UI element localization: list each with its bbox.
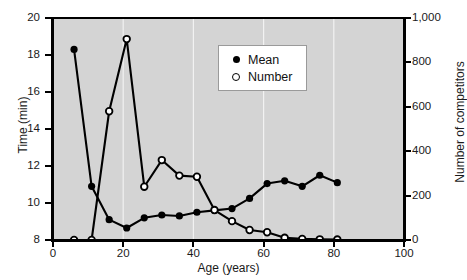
- data-point: [229, 218, 236, 225]
- chart-legend: Mean Number: [218, 45, 307, 91]
- y-axis-right-tick-label: 0: [412, 234, 462, 246]
- data-point: [159, 157, 166, 164]
- tick-mark: [45, 165, 51, 167]
- data-point: [299, 183, 306, 190]
- x-axis-tick-label: 0: [33, 248, 73, 260]
- data-point: [88, 183, 95, 190]
- legend-label-mean: Mean: [248, 53, 279, 67]
- data-point: [70, 46, 77, 53]
- data-point: [158, 211, 165, 218]
- tick-mark: [405, 150, 411, 152]
- axis-right-spine: [403, 17, 406, 241]
- y-axis-left-title: Time (min): [16, 55, 30, 195]
- data-point: [194, 173, 201, 180]
- data-point: [106, 216, 113, 223]
- legend-label-number: Number: [248, 70, 292, 84]
- tick-mark: [405, 17, 411, 19]
- x-axis-tick-label: 40: [173, 248, 213, 260]
- tick-mark: [45, 17, 51, 19]
- tick-mark: [405, 195, 411, 197]
- data-point: [123, 224, 130, 231]
- x-axis-tick-label: 20: [103, 248, 143, 260]
- data-point: [334, 179, 341, 186]
- axis-bottom-spine: [51, 239, 406, 242]
- x-axis-tick-label: 80: [314, 248, 354, 260]
- data-point: [281, 177, 288, 184]
- data-point: [123, 36, 130, 43]
- tick-mark: [45, 54, 51, 56]
- data-point: [211, 207, 218, 214]
- data-point: [228, 205, 235, 212]
- tick-mark: [405, 239, 411, 241]
- data-point: [264, 180, 271, 187]
- tick-mark: [405, 106, 411, 108]
- legend-item-mean: Mean: [229, 51, 292, 68]
- legend-item-number: Number: [229, 68, 292, 85]
- tick-mark: [45, 202, 51, 204]
- axis-left-spine: [51, 17, 54, 241]
- data-point: [106, 108, 113, 115]
- data-point: [316, 172, 323, 179]
- y-axis-left-tick-label: 10: [0, 197, 40, 209]
- tick-mark: [45, 91, 51, 93]
- x-axis-tick-label: 60: [244, 248, 284, 260]
- data-point: [141, 183, 148, 190]
- y-axis-right-title: Number of competitors: [453, 32, 467, 212]
- tick-mark: [45, 128, 51, 130]
- tick-mark: [405, 61, 411, 63]
- data-point: [176, 212, 183, 219]
- x-axis-tick-label: 100: [384, 248, 424, 260]
- axis-top-spine: [51, 17, 406, 19]
- x-axis-title: Age (years): [53, 261, 404, 275]
- y-axis-left-tick-label: 20: [0, 12, 40, 24]
- tick-mark: [45, 239, 51, 241]
- filled-circle-icon: [229, 56, 243, 63]
- data-point: [264, 229, 271, 236]
- y-axis-left-tick-label: 8: [0, 234, 40, 246]
- data-point: [193, 209, 200, 216]
- y-axis-right-tick-label: 1,000: [412, 12, 462, 24]
- data-point: [141, 214, 148, 221]
- open-circle-icon: [229, 73, 243, 81]
- data-point: [246, 195, 253, 202]
- data-point: [176, 172, 183, 179]
- data-point: [246, 227, 253, 234]
